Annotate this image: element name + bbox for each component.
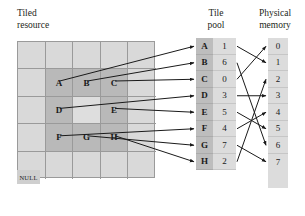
tile-pool-key-d: D	[196, 88, 213, 105]
tile-cell-label: G	[73, 132, 100, 142]
tile-cell-h: H	[101, 124, 129, 151]
tile-pool-row: F4	[196, 121, 236, 138]
tile-cell-label: H	[101, 132, 128, 142]
tile-pool-key-a: A	[196, 38, 213, 55]
tiled-resource-grid: ABCDEFGH	[17, 41, 155, 178]
tile-pool-value-h: 2	[213, 154, 236, 171]
tile-pool-row: H2	[196, 154, 236, 171]
tile-cell-d: D	[46, 97, 74, 124]
tile-cell-b: B	[73, 69, 101, 96]
tile-cell-label: F	[46, 132, 73, 142]
tile-pool-value-d: 3	[213, 88, 236, 105]
tile-pool-value-a: 1	[213, 38, 236, 55]
tile-pool-row: B6	[196, 55, 236, 72]
tile-pool-row: D3	[196, 88, 236, 105]
tile-cell-empty	[128, 124, 156, 151]
tile-cell-empty	[46, 152, 74, 179]
physical-memory-slot-0: 0	[268, 38, 288, 55]
tile-cell-label: A	[46, 78, 73, 88]
tile-cell-empty	[128, 69, 156, 96]
tile-cell-label: B	[73, 78, 100, 88]
tiled-resource-heading: Tiled resource	[17, 8, 49, 31]
tile-cell-c: C	[101, 69, 129, 96]
tile-cell-empty	[101, 152, 129, 179]
arrow-pool-f-to-slot-4	[237, 112, 266, 129]
tile-pool-row: C0	[196, 71, 236, 88]
tile-pool-key-b: B	[196, 55, 213, 72]
arrow-pool-a-to-slot-1	[237, 46, 266, 63]
tile-pool-key-c: C	[196, 71, 213, 88]
physical-memory-slot-5: 5	[268, 121, 288, 138]
diagram-canvas: Tiled resource Tile pool Physical memory…	[0, 0, 305, 216]
tile-cell-empty	[128, 97, 156, 124]
tile-cell-empty	[18, 124, 46, 151]
tile-pool-key-f: F	[196, 121, 213, 138]
arrow-pool-h-to-slot-2	[237, 79, 266, 162]
tile-pool-row: A1	[196, 38, 236, 55]
tile-pool-heading: Tile pool	[196, 8, 236, 31]
tile-pool-value-f: 4	[213, 121, 236, 138]
arrow-pool-c-to-slot-0	[237, 46, 266, 79]
tile-pool-row: E5	[196, 104, 236, 121]
tile-cell-empty	[101, 42, 129, 69]
arrow-pool-b-to-slot-6	[237, 63, 266, 146]
tile-cell-empty	[73, 152, 101, 179]
tile-cell-label: D	[46, 105, 73, 115]
tile-cell-empty	[128, 152, 156, 179]
tile-cell-label: E	[101, 105, 128, 115]
tile-pool-value-e: 5	[213, 104, 236, 121]
tile-pool-key-h: H	[196, 154, 213, 171]
tile-pool-value-b: 6	[213, 55, 236, 72]
tile-pool-null-entry: NULL	[17, 170, 40, 184]
tile-cell-empty	[46, 42, 74, 69]
tile-cell-g: G	[73, 124, 101, 151]
tile-cell-f: F	[46, 124, 74, 151]
tile-pool-row: G7	[196, 137, 236, 154]
arrow-pool-g-to-slot-7	[237, 145, 266, 162]
tile-cell-empty	[73, 97, 101, 124]
tile-cell-empty	[18, 97, 46, 124]
tile-cell-empty	[73, 42, 101, 69]
tile-cell-empty	[18, 69, 46, 96]
tile-pool-key-g: G	[196, 137, 213, 154]
tile-pool-table: A1B6C0D3E5F4G7H2	[196, 38, 236, 188]
physical-memory-slot-4: 4	[268, 104, 288, 121]
physical-memory-slot-1: 1	[268, 55, 288, 72]
tile-cell-empty	[18, 42, 46, 69]
physical-memory-slot-6: 6	[268, 137, 288, 154]
tile-cell-empty	[128, 42, 156, 69]
physical-memory-slot-2: 2	[268, 71, 288, 88]
physical-memory-slot-7: 7	[268, 154, 288, 171]
tile-cell-a: A	[46, 69, 74, 96]
physical-memory-table: 01234567	[268, 38, 288, 188]
pool-to-memory-arrows	[237, 46, 266, 162]
arrow-pool-e-to-slot-5	[237, 112, 266, 129]
physical-memory-slot-3: 3	[268, 88, 288, 105]
physical-memory-heading: Physical memory	[250, 8, 300, 31]
tile-cell-e: E	[101, 97, 129, 124]
tile-pool-value-c: 0	[213, 71, 236, 88]
tile-cell-label: C	[101, 78, 128, 88]
tile-pool-value-g: 7	[213, 137, 236, 154]
tile-pool-key-e: E	[196, 104, 213, 121]
